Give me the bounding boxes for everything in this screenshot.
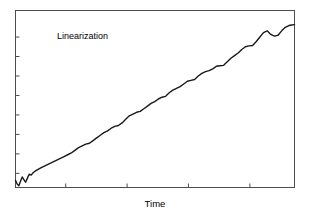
x-axis-label: Time — [0, 198, 310, 209]
series-annotation-label: Linearization — [57, 31, 108, 41]
line-chart-plot — [0, 0, 310, 219]
x-axis-ticks — [66, 184, 250, 188]
chart-figure: Linearization Time — [0, 0, 310, 219]
data-series-group — [16, 25, 295, 186]
y-axis-ticks — [16, 37, 20, 173]
series-line — [16, 25, 295, 186]
